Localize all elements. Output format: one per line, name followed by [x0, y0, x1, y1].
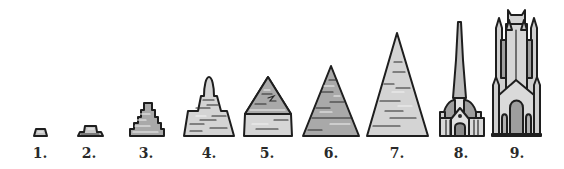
structure-5-bent-pyramid: [244, 77, 292, 136]
stage-label-4: 4.: [202, 145, 217, 161]
evolution-diagram: 1. 2. 3. 4. 5. 6. 7. 8. 9.: [0, 0, 564, 169]
structure-4-stepped-stupa: [184, 77, 234, 136]
structure-6-pyramid: [303, 66, 359, 136]
structure-8-spired-cathedral: [440, 22, 484, 136]
structure-2-stepped-platform: [78, 126, 103, 136]
structure-1-small-mound: [34, 129, 47, 136]
stage-label-7: 7.: [390, 145, 405, 161]
stage-label-1: 1.: [33, 145, 48, 161]
stage-label-3: 3.: [139, 145, 154, 161]
stage-label-2: 2.: [82, 145, 97, 161]
stage-labels: 1. 2. 3. 4. 5. 6. 7. 8. 9.: [33, 145, 525, 161]
structure-3-stepped-pyramid: [130, 103, 164, 136]
stage-label-6: 6.: [324, 145, 339, 161]
stage-label-9: 9.: [510, 145, 525, 161]
structure-7-great-pyramid: [367, 33, 428, 136]
stage-label-8: 8.: [454, 145, 469, 161]
structure-9-gothic-tower-cathedral: [492, 10, 541, 136]
stage-label-5: 5.: [260, 145, 275, 161]
